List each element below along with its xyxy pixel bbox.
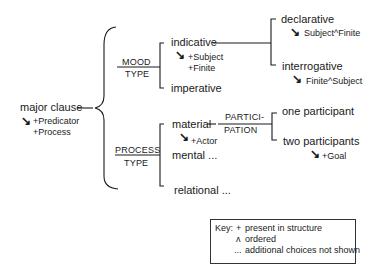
realization-finite: +Finite	[188, 64, 215, 73]
realization-arrow-icon: ↘	[179, 131, 189, 143]
feature-one-participant: one participant	[282, 106, 354, 117]
realization-arrow-icon: ↘	[310, 148, 320, 160]
feature-imperative: imperative	[171, 83, 222, 94]
system-name-mood: MOOD	[122, 58, 151, 67]
realization-arrow-icon: ↘	[21, 115, 31, 127]
feature-two-participants: two participants	[283, 136, 359, 147]
system-name-participation-top: PARTICI-	[225, 113, 264, 122]
feature-declarative: declarative	[281, 14, 334, 25]
feature-mental: mental ...	[172, 150, 217, 161]
system-name-mood-type: TYPE	[125, 70, 149, 79]
key-meaning-additional: additional choices not shown	[245, 246, 360, 255]
realization-arrow-icon: ↘	[290, 26, 300, 38]
realization-finite-subject: Finite^Subject	[306, 77, 362, 86]
key-meaning-present: present in structure	[245, 224, 322, 233]
key-title: Key:	[215, 224, 233, 233]
realization-subject-finite: Subject^Finite	[304, 29, 360, 38]
feature-material: material	[172, 119, 211, 130]
system-name-process: PROCESS	[115, 146, 160, 155]
realization-arrow-icon: ↘	[292, 73, 302, 85]
realization-actor: +Actor	[191, 137, 217, 146]
realization-subject: +Subject	[188, 53, 223, 62]
feature-relational: relational ...	[174, 185, 231, 196]
key-symbol-ellipsis: ...	[234, 246, 242, 255]
feature-interrogative: interrogative	[282, 61, 343, 72]
system-name-process-type: TYPE	[124, 159, 148, 168]
realization-predicator: +Predicator	[33, 117, 79, 126]
realization-process: +Process	[33, 128, 71, 137]
key-meaning-ordered: ordered	[245, 235, 276, 244]
key-symbol-caret: ʌ	[236, 235, 241, 244]
feature-indicative: indicative	[171, 37, 217, 48]
system-network-diagram: major clause ↘ +Predicator +Process MOOD…	[0, 0, 383, 276]
root-feature-major-clause: major clause	[20, 102, 82, 113]
system-name-participation-bottom: PATION	[224, 126, 257, 135]
key-symbol-plus: +	[236, 224, 241, 233]
realization-goal: +Goal	[322, 152, 346, 161]
realization-arrow-icon: ↘	[175, 49, 185, 61]
